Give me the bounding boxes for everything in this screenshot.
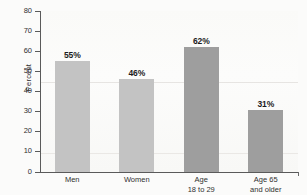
- x-axis-category-line: Age 65: [254, 175, 278, 184]
- y-axis-tick: [35, 131, 40, 132]
- y-axis-tick-label: 40: [10, 87, 32, 95]
- bar: [55, 61, 90, 172]
- bar-chart-figure: Percent 01020304050607080 55%46%62%31% M…: [0, 0, 307, 195]
- y-axis-tick-label: 60: [10, 47, 32, 55]
- y-axis-tick-label: 80: [10, 7, 32, 15]
- x-axis-category-label: Age18 to 29: [165, 175, 237, 194]
- x-axis-category-line: and older: [230, 185, 302, 195]
- y-axis-title: Percent: [24, 51, 33, 105]
- y-axis-tick: [35, 11, 40, 12]
- y-axis-tick-label: 0: [10, 168, 32, 176]
- x-axis-category-line: Age: [195, 175, 208, 184]
- x-axis-category-line: Women: [124, 175, 150, 184]
- bar: [248, 110, 283, 172]
- y-axis-tick: [35, 172, 40, 173]
- y-axis-tick: [35, 111, 40, 112]
- y-axis-tick-label: 70: [10, 27, 32, 35]
- y-axis-tick: [35, 51, 40, 52]
- bar-value-label: 55%: [52, 50, 92, 60]
- bar: [184, 47, 219, 172]
- y-axis-tick: [35, 151, 40, 152]
- x-axis-category-line: 18 to 29: [165, 185, 237, 195]
- x-axis-category-label: Women: [101, 175, 173, 185]
- y-axis-tick-label: 20: [10, 127, 32, 135]
- bar-value-label: 31%: [246, 99, 286, 109]
- x-axis-category-line: Men: [65, 175, 80, 184]
- y-axis-tick: [35, 91, 40, 92]
- y-axis-tick-label: 10: [10, 147, 32, 155]
- y-axis-tick-label: 30: [10, 107, 32, 115]
- bar-value-label: 46%: [117, 68, 157, 78]
- bar: [119, 79, 154, 172]
- bar-value-label: 62%: [181, 36, 221, 46]
- y-axis-tick: [35, 31, 40, 32]
- y-axis-tick-label: 50: [10, 67, 32, 75]
- x-axis-category-label: Age 65and older: [230, 175, 302, 194]
- x-axis-category-label: Men: [36, 175, 108, 185]
- y-axis-tick: [35, 71, 40, 72]
